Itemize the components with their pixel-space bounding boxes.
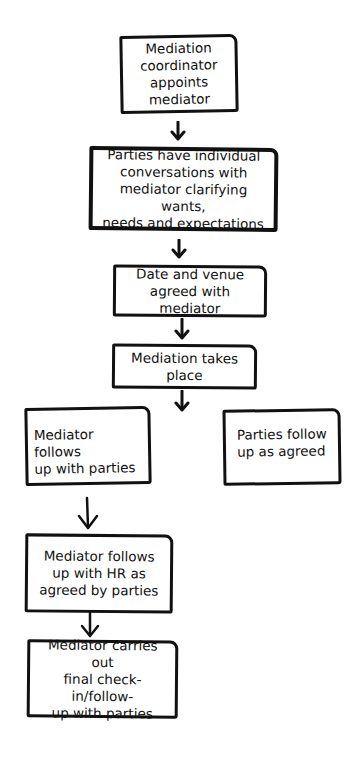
arrow-down-icon (171, 239, 187, 259)
step-label: Mediation takes place (131, 349, 238, 384)
step-date-and-venue: Date and venue agreed with mediator (113, 264, 267, 317)
step-label: Mediator follows up with HR as agreed by… (39, 547, 159, 599)
step-coordinator-appoints-mediator: Mediation coordinator appoints mediator (119, 34, 238, 114)
step-individual-conversations: Parties have individual conversations wi… (89, 146, 279, 232)
arrow-down-icon (79, 612, 101, 638)
arrow-down-icon (170, 121, 186, 141)
mediation-process-flowchart: Mediation coordinator appoints mediator … (0, 0, 358, 767)
step-label: Mediator follows up with parties (34, 425, 143, 478)
step-label: Mediator carries out final check-in/foll… (36, 636, 170, 722)
step-mediator-follows-up-hr: Mediator follows up with HR as agreed by… (25, 533, 174, 613)
step-label: Mediation coordinator appoints mediator (128, 39, 229, 109)
step-mediation-takes-place: Mediation takes place (112, 343, 257, 389)
step-label: Parties follow up as agreed (237, 425, 327, 460)
step-label: Date and venue agreed with mediator (122, 265, 258, 317)
arrow-down-icon (174, 318, 190, 340)
arrow-down-icon (76, 496, 100, 530)
step-final-check-in: Mediator carries out final check-in/foll… (27, 639, 179, 718)
step-parties-follow-up: Parties follow up as agreed (222, 408, 341, 486)
step-label: Parties have individual conversations wi… (99, 146, 269, 233)
arrow-down-icon (174, 390, 190, 412)
step-mediator-follows-up-parties: Mediator follows up with parties (24, 406, 151, 486)
